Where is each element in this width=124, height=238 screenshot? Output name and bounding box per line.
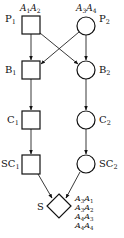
label-sc2: SC2 (99, 158, 118, 171)
annotation-p2: A3A4 (75, 3, 97, 14)
edge-sc1-s (38, 174, 52, 198)
annotation-s: A3A1 A3A2 A4A3 A4A4 (74, 194, 94, 231)
node-c1-square (22, 111, 40, 129)
node-sc2-circle (77, 155, 95, 173)
node-p1-square (22, 16, 40, 34)
label-c1: C1 (7, 114, 19, 127)
node-sc1-square (22, 155, 40, 174)
node-p2-circle (77, 17, 95, 35)
label-sc1: SC1 (1, 158, 20, 171)
flow-diagram: P1 P2 B1 B2 C1 C2 SC1 SC2 S A1A2 A3A4 A3… (0, 0, 124, 238)
label-b1: B1 (5, 64, 17, 77)
node-b2-circle (77, 61, 95, 79)
label-b2: B2 (99, 64, 111, 77)
annotation-s-line-4: A4A4 (74, 221, 94, 231)
label-s: S (37, 201, 44, 212)
label-c2: C2 (99, 114, 111, 127)
node-c2-circle (77, 111, 95, 129)
annotation-p1: A1A2 (19, 3, 41, 14)
edge-p2-b1 (41, 32, 79, 64)
label-p2: P2 (99, 13, 110, 26)
node-b1-square (22, 61, 40, 79)
label-p1: P1 (5, 13, 16, 26)
node-s-diamond (47, 194, 71, 218)
